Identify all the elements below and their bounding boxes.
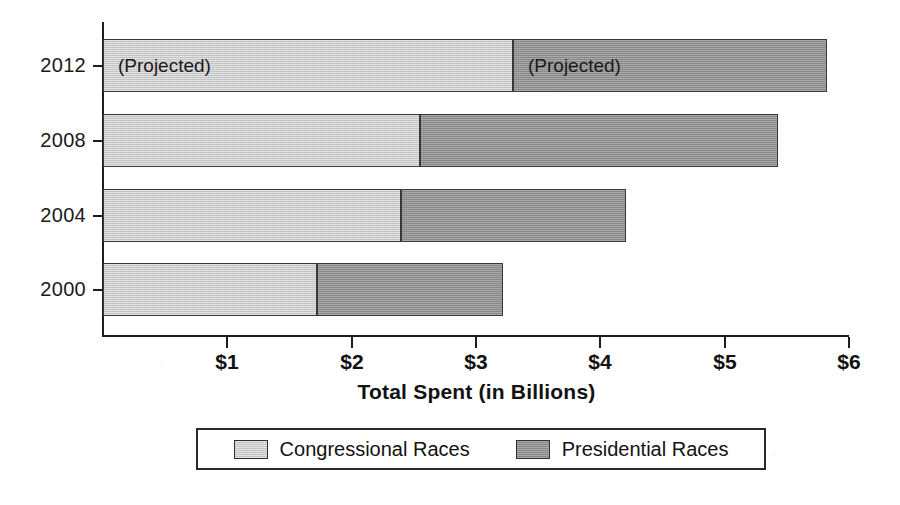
x-axis-label-1: $1 [197,350,257,374]
bar-annotation-presidential-2012: (Projected) [514,55,621,77]
legend-swatch-congressional-icon [234,440,268,459]
x-axis-label-3: $3 [446,350,506,374]
x-axis-tick-4 [599,337,601,348]
x-axis-tick-6 [848,337,850,348]
y-axis-label-2000: 2000 [8,278,86,301]
x-axis-label-5: $5 [695,350,755,374]
y-axis-tick-2012 [93,65,103,67]
x-axis-tick-1 [226,337,228,348]
bar-segment-presidential-2000 [317,263,503,316]
x-axis-title: Total Spent (in Billions) [103,380,850,404]
bar-segment-presidential-2008 [420,114,778,167]
y-axis-tick-2008 [93,140,103,142]
bar-segment-congressional-2004 [103,189,401,242]
bar-annotation-congressional-2012: (Projected) [104,55,211,77]
bar-segment-presidential-2012: (Projected) [513,39,827,92]
plot-area: 2012 2008 2004 2000 (Projected) (Project… [0,0,900,340]
legend-swatch-presidential-icon [516,440,550,459]
x-axis-label-4: $4 [570,350,630,374]
legend-label-presidential: Presidential Races [562,438,729,461]
x-axis-tick-3 [475,337,477,348]
bar-segment-presidential-2004 [401,189,626,242]
x-axis-label-6: $6 [819,350,879,374]
bar-segment-congressional-2012: (Projected) [103,39,513,92]
x-axis-label-2: $2 [322,350,382,374]
legend-item-presidential[interactable]: Presidential Races [516,438,729,461]
chart-legend: Congressional Races Presidential Races [196,428,766,470]
bar-segment-congressional-2000 [103,263,317,316]
y-axis-tick-2004 [93,215,103,217]
x-axis-tick-5 [724,337,726,348]
bar-segment-congressional-2008 [103,114,420,167]
y-axis-label-2012: 2012 [8,54,86,77]
y-axis-tick-2000 [93,289,103,291]
legend-label-congressional: Congressional Races [280,438,470,461]
y-axis-label-2008: 2008 [8,129,86,152]
legend-item-congressional[interactable]: Congressional Races [234,438,470,461]
x-axis-tick-2 [351,337,353,348]
stacked-bar-chart: 2012 2008 2004 2000 (Projected) (Project… [0,0,900,505]
y-axis-label-2004: 2004 [8,204,86,227]
